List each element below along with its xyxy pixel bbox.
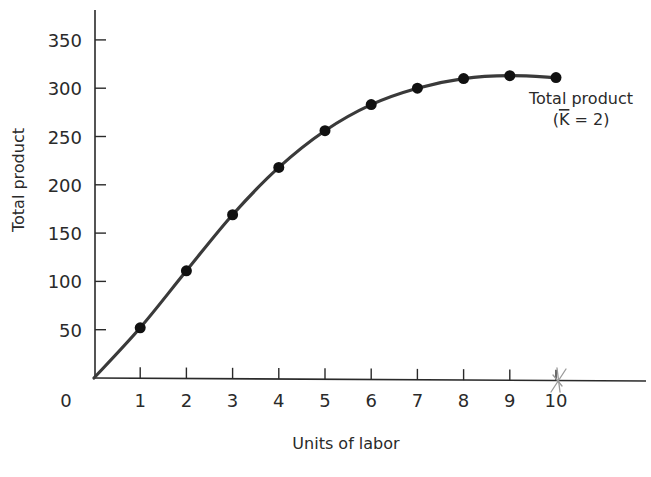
data-point [181,265,192,276]
x-tick-label: 7 [412,390,423,411]
axes [94,10,646,381]
x-tick-label: 3 [227,390,238,411]
data-point [135,322,146,333]
y-tick-label: 250 [48,127,82,148]
x-tick-label: 1 [134,390,145,411]
origin-label: 0 [60,390,71,411]
x-tick-label: 10 [545,390,568,411]
series-label-line1: Total product [528,89,633,108]
y-ticks: 50100150200250300350 [48,30,106,341]
x-ticks: 12345678910 [134,367,567,411]
y-tick-label: 300 [48,78,82,99]
x-tick-label: 4 [273,390,284,411]
series-label: Total product (K = 2) [528,89,633,129]
y-tick-label: 50 [59,320,82,341]
data-point [273,162,284,173]
x-axis-title: Units of labor [292,434,400,453]
x-tick-label: 2 [181,390,192,411]
k-bar-symbol: K [559,110,570,129]
x-tick-label: 6 [365,390,376,411]
data-point [412,83,423,94]
y-tick-label: 100 [48,271,82,292]
y-tick-label: 150 [48,223,82,244]
data-point [227,209,238,220]
y-axis-title: Total product [9,128,28,233]
data-point [504,70,515,81]
x-tick-label: 8 [458,390,469,411]
total-product-series [94,70,562,378]
x-tick-label: 5 [319,390,330,411]
data-point [320,125,331,136]
y-tick-label: 350 [48,30,82,51]
x-axis [94,378,646,381]
total-product-chart: 50100150200250300350 12345678910 0 Total… [0,0,651,477]
y-tick-label: 200 [48,175,82,196]
data-point [458,73,469,84]
x-tick-label: 9 [504,390,515,411]
data-point [366,99,377,110]
data-point [551,72,562,83]
data-points [135,70,562,333]
total-product-curve [94,76,556,378]
series-label-line2: (K = 2) [553,110,610,129]
